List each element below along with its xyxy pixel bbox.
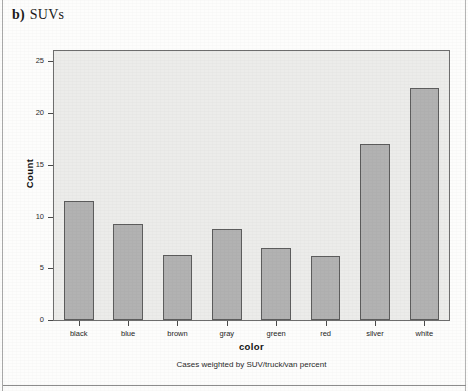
bar-chart: Count 0510152025 blackbluebrowngraygreen…	[0, 0, 468, 391]
bar-white	[410, 88, 440, 320]
y-tick-mark	[48, 217, 53, 218]
bar-silver	[360, 144, 390, 320]
bar-blue	[113, 224, 143, 320]
x-tick-mark	[177, 321, 178, 326]
bar-gray	[212, 229, 242, 320]
chart-footnote: Cases weighted by SUV/truck/van percent	[53, 360, 450, 369]
y-tick-mark	[48, 320, 53, 321]
x-tick-mark	[128, 321, 129, 326]
y-tick-label: 25	[22, 56, 44, 65]
x-tick-mark	[424, 321, 425, 326]
x-tick-mark	[375, 321, 376, 326]
y-axis-title: Count	[24, 139, 35, 209]
x-tick-mark	[227, 321, 228, 326]
bars-container	[54, 51, 449, 320]
bar-red	[311, 256, 341, 320]
bar-black	[64, 201, 94, 320]
x-tick-label-white: white	[394, 329, 454, 338]
bar-brown	[163, 255, 193, 320]
x-tick-mark	[326, 321, 327, 326]
x-tick-mark	[79, 321, 80, 326]
figure-page: b)SUVs Count 0510152025 blackbluebrowngr…	[0, 0, 468, 391]
y-tick-mark	[48, 113, 53, 114]
y-tick-label: 10	[22, 212, 44, 221]
x-tick-mark	[276, 321, 277, 326]
y-tick-label: 15	[22, 160, 44, 169]
y-tick-label: 0	[22, 315, 44, 324]
y-tick-label: 5	[22, 263, 44, 272]
y-tick-label: 20	[22, 108, 44, 117]
y-tick-mark	[48, 165, 53, 166]
bar-green	[261, 248, 291, 320]
x-axis-title: color	[53, 341, 450, 352]
y-tick-mark	[48, 61, 53, 62]
y-tick-mark	[48, 268, 53, 269]
